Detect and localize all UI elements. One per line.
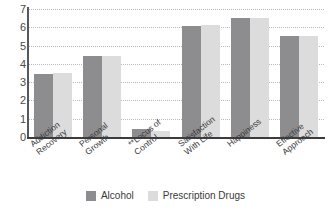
grouped-bar-chart: 01234567 AddictionRecoveryPersonalGrowth… <box>0 0 331 216</box>
y-axis-tick-label: 5 <box>20 40 26 51</box>
bar-group <box>28 9 77 137</box>
legend-entry[interactable]: Prescription Drugs <box>148 190 245 201</box>
y-axis-tick-label: 3 <box>20 77 26 88</box>
legend-label: Prescription Drugs <box>163 190 245 201</box>
bar-group <box>275 9 324 137</box>
legend-entry[interactable]: Alcohol <box>86 190 134 201</box>
bar-group <box>225 9 274 137</box>
y-axis-tick-label: 6 <box>20 22 26 33</box>
legend-swatch-icon <box>86 191 96 201</box>
bar-alcohol[interactable] <box>182 26 201 137</box>
bars-layer <box>28 9 324 137</box>
plot-frame: 01234567 AddictionRecoveryPersonalGrowth… <box>0 0 331 150</box>
bar-group <box>77 9 126 137</box>
bar-alcohol[interactable] <box>231 18 250 137</box>
legend-swatch-icon <box>148 191 158 201</box>
legend-label: Alcohol <box>101 190 134 201</box>
chart-legend: AlcoholPrescription Drugs <box>0 190 331 201</box>
y-axis-tick-label: 4 <box>20 58 26 69</box>
y-axis-tick-labels: 01234567 <box>13 9 26 137</box>
bar-group <box>176 9 225 137</box>
bar-group <box>127 9 176 137</box>
x-axis-category-labels: AddictionRecoveryPersonalGrowth**Locus o… <box>28 139 324 187</box>
y-axis-tick-label: 2 <box>20 95 26 106</box>
y-axis-tick-label: 7 <box>20 4 26 15</box>
y-axis-tick-label: 1 <box>20 113 26 124</box>
y-axis-tick-label: 0 <box>20 132 26 143</box>
